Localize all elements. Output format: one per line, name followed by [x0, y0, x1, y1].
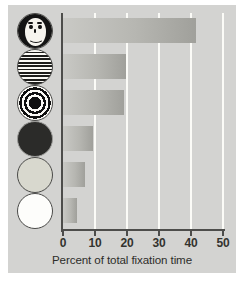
face-pattern-icon — [17, 13, 53, 49]
plain-light-yellow-disc-icon — [17, 157, 53, 193]
face-eyebrow-right — [37, 22, 42, 24]
x-tick-label-0: 0 — [48, 236, 78, 250]
gridline-30 — [158, 13, 160, 229]
bar-plain-light-yellow-disc — [63, 162, 85, 187]
gridline-10 — [94, 13, 96, 229]
bar-face-pattern-disc — [63, 18, 196, 43]
stimulus-row-light — [14, 157, 56, 193]
plot-area — [63, 13, 223, 229]
bar-plain-white-disc — [63, 198, 77, 223]
bar-newsprint-stripes-disc — [63, 54, 126, 79]
stimulus-row-dark — [14, 121, 56, 157]
x-tick-label-20: 20 — [112, 236, 142, 250]
x-tick-label-40: 40 — [176, 236, 206, 250]
stimulus-row-newsprint — [14, 49, 56, 85]
gridline-50 — [222, 13, 224, 229]
x-axis-line — [61, 229, 225, 231]
face-eyebrow-left — [28, 22, 33, 24]
stimulus-row-white — [14, 193, 56, 229]
solid-dark-disc-icon — [17, 121, 53, 157]
gridline-20 — [126, 13, 128, 229]
bar-bullseye-concentric-disc — [63, 90, 124, 115]
stimulus-row-face — [14, 13, 56, 49]
stimulus-row-bullseye — [14, 85, 56, 121]
face-eye-left — [29, 25, 33, 29]
stimulus-icon-column — [14, 13, 56, 229]
plain-white-disc-icon — [17, 193, 53, 229]
bullseye-concentric-icon — [17, 85, 53, 121]
gridline-40 — [190, 13, 192, 229]
newsprint-stripes-icon — [17, 49, 53, 85]
x-tick-label-50: 50 — [208, 236, 238, 250]
face-smile-mouth — [28, 33, 44, 43]
fixation-time-figure: 01020304050 Percent of total fixation ti… — [0, 0, 244, 292]
x-axis-title: Percent of total fixation time — [8, 253, 236, 266]
bar-solid-dark-disc — [63, 126, 93, 151]
face-eye-right — [38, 25, 42, 29]
x-tick-label-10: 10 — [80, 236, 110, 250]
x-tick-label-30: 30 — [144, 236, 174, 250]
